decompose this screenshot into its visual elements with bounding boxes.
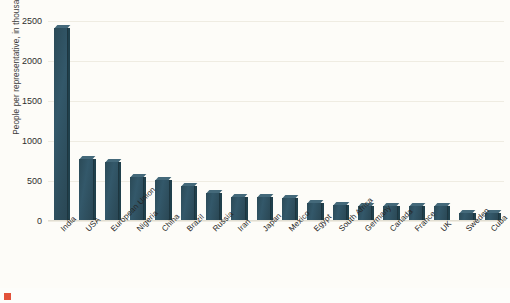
plot-area [48, 21, 504, 221]
bar-top-face [308, 200, 324, 203]
bar [257, 197, 270, 221]
y-axis-ticks: 05001000150020002500 [0, 21, 48, 221]
bar-top-face [181, 183, 197, 186]
y-tick-label: 2000 [22, 56, 42, 66]
bar-front-face [206, 193, 220, 221]
bar-front-face [282, 198, 296, 221]
bar-front-face [181, 186, 195, 221]
bar-top-face [460, 210, 476, 213]
bar-chart: People per representative, in thousands … [0, 0, 510, 303]
y-tick-label: 0 [37, 216, 42, 226]
bar-top-face [232, 194, 248, 197]
bar-front-face [79, 159, 93, 221]
y-tick-label: 500 [27, 176, 42, 186]
bar-series [48, 21, 504, 221]
bar [79, 159, 92, 221]
bar [54, 28, 67, 221]
y-tick-label: 1000 [22, 136, 42, 146]
y-tick-label: 1500 [22, 96, 42, 106]
bar-top-face [105, 159, 121, 162]
footer-marker-icon [4, 293, 11, 300]
bar-front-face [105, 162, 119, 221]
footer-strip [0, 288, 510, 303]
bar-front-face [54, 28, 68, 221]
x-axis-labels: IndiaUSAEuropean UnionNigeriaChinaBrazil… [48, 224, 504, 296]
bar [282, 198, 295, 221]
bar [181, 186, 194, 221]
bar-front-face [231, 197, 245, 221]
y-tick-label: 2500 [22, 16, 42, 26]
bar [206, 193, 219, 221]
bar-top-face [409, 203, 425, 206]
bar-top-face [131, 174, 147, 177]
bar [105, 162, 118, 221]
